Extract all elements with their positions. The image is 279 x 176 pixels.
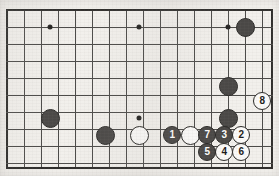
grid-line-vertical — [109, 9, 110, 169]
stone-move-number: 6 — [238, 147, 243, 157]
black-stone-bottom-left[interactable] — [96, 126, 115, 145]
numbered-stone-5[interactable]: 5 — [198, 143, 216, 161]
grid-line-vertical — [126, 9, 127, 169]
black-stone-left[interactable] — [41, 109, 60, 128]
numbered-stone-7[interactable]: 7 — [198, 126, 216, 144]
black-stone-right-upper[interactable] — [219, 77, 238, 96]
white-stone-bottom-center[interactable] — [130, 126, 149, 145]
grid-line-vertical — [92, 9, 93, 169]
numbered-stone-6[interactable]: 6 — [232, 143, 250, 161]
grid-line-vertical — [262, 9, 263, 169]
black-stone-right-lower[interactable] — [219, 109, 238, 128]
grid-line-vertical — [160, 9, 161, 169]
stone-move-number: 4 — [221, 147, 226, 157]
star-point-top-center — [137, 25, 142, 30]
numbered-stone-1[interactable]: 1 — [163, 126, 181, 144]
grid-line-vertical — [75, 9, 76, 169]
stone-move-number: 8 — [259, 96, 264, 106]
star-point-top-right — [226, 25, 231, 30]
grid-line-vertical — [24, 9, 25, 169]
grid-line-horizontal — [6, 61, 274, 62]
numbered-stone-2[interactable]: 2 — [232, 126, 250, 144]
star-point-top-left — [48, 25, 53, 30]
grid-line-vertical — [194, 9, 195, 169]
stone-move-number: 2 — [238, 130, 243, 140]
grid-line-horizontal — [6, 95, 274, 96]
grid-line-vertical — [58, 9, 59, 169]
board-edge-vertical — [6, 9, 8, 169]
star-point-center — [137, 116, 142, 121]
stone-move-number: 1 — [169, 130, 174, 140]
stone-move-number: 7 — [204, 130, 209, 140]
go-board-diagram: 12345678 — [0, 0, 279, 176]
stone-move-number: 5 — [204, 147, 209, 157]
board-edge-right — [271, 9, 273, 169]
board-edge-horizontal — [6, 9, 274, 11]
numbered-stone-8[interactable]: 8 — [253, 92, 271, 110]
grid-line-vertical — [177, 9, 178, 169]
grid-line-horizontal — [6, 163, 274, 164]
grid-line-vertical — [143, 9, 144, 169]
numbered-stone-4[interactable]: 4 — [215, 143, 233, 161]
white-stone-bottom-right-area[interactable] — [181, 126, 200, 145]
black-stone-top-right[interactable] — [236, 18, 255, 37]
board-edge-bottom — [6, 167, 274, 169]
numbered-stone-3[interactable]: 3 — [215, 126, 233, 144]
grid-line-vertical — [41, 9, 42, 169]
grid-line-horizontal — [6, 44, 274, 45]
stone-move-number: 3 — [221, 130, 226, 140]
